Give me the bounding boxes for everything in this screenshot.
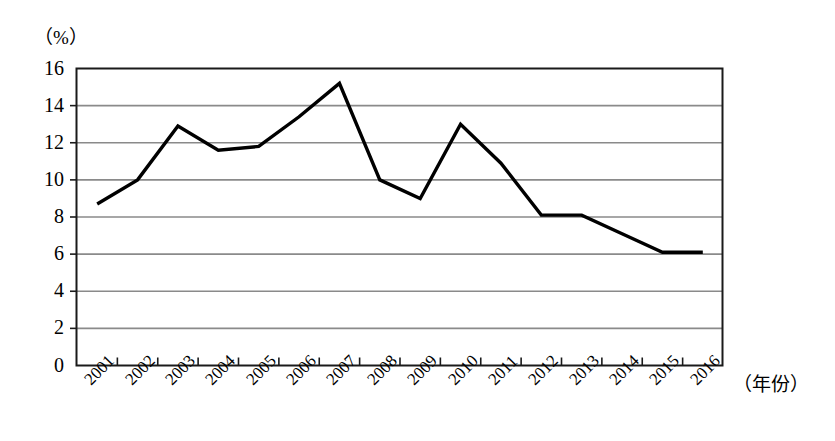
data-line-series (97, 83, 703, 252)
y-axis-tick-label: 14 (30, 95, 64, 115)
y-axis-tick-label: 6 (30, 243, 64, 263)
y-axis-tick-label: 16 (30, 58, 64, 78)
y-axis-tick-label: 12 (30, 132, 64, 152)
y-axis-tick-label: 8 (30, 206, 64, 226)
y-axis-tick-label: 2 (30, 317, 64, 337)
line-chart: （%） （年份） 0246810121416 20012002200320042… (0, 0, 835, 441)
y-axis-tick-label: 10 (30, 169, 64, 189)
y-axis-tick-label: 0 (30, 355, 64, 375)
gridlines-group (77, 106, 723, 329)
y-axis-tick-label: 4 (30, 280, 64, 300)
